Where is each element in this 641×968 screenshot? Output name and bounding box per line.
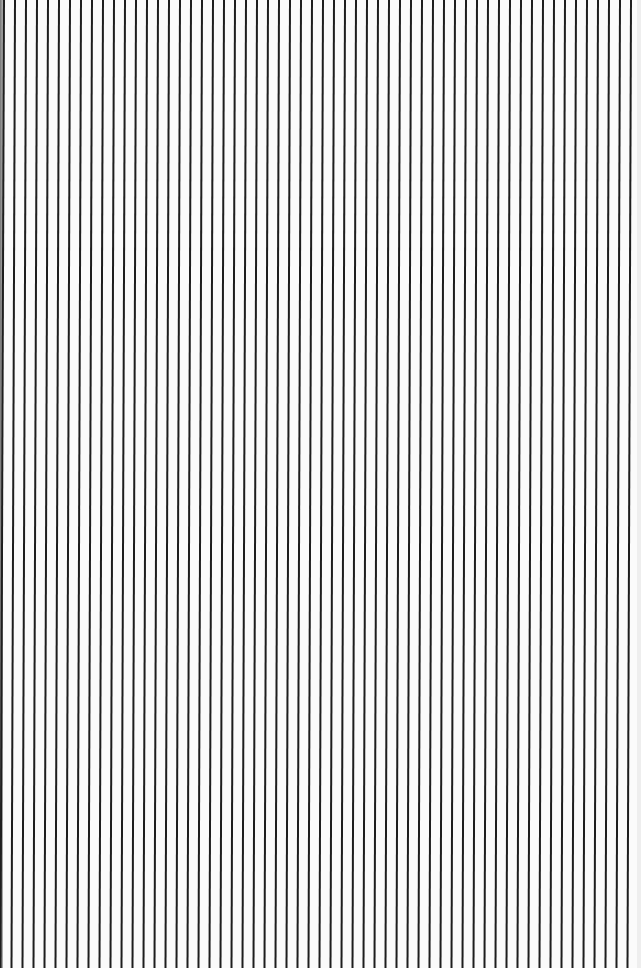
stripe-line	[550, 0, 556, 968]
stripe-line	[407, 0, 412, 968]
stripe-line	[165, 0, 170, 968]
stripe-line	[319, 0, 324, 968]
stripe-line	[132, 0, 137, 968]
stripe-group	[0, 0, 641, 968]
stripe-line	[627, 0, 633, 968]
stripe-line	[583, 0, 589, 968]
stripe-line	[77, 0, 82, 968]
stripe-line	[440, 0, 445, 968]
stripe-line	[594, 0, 600, 968]
stripe-line	[99, 0, 104, 968]
stripe-line	[55, 0, 60, 968]
stripe-line	[572, 0, 578, 968]
stripe-line	[484, 0, 489, 968]
stripe-line	[297, 0, 302, 968]
stripe-line	[88, 0, 93, 968]
stripe-line	[363, 0, 368, 968]
stripe-line	[187, 0, 192, 968]
stripe-line	[385, 0, 390, 968]
stripe-line	[209, 0, 214, 968]
stripe-line	[11, 0, 16, 968]
stripe-line	[231, 0, 236, 968]
stripe-line	[22, 0, 27, 968]
stripe-line	[0, 0, 5, 968]
stripe-line	[176, 0, 181, 968]
stripe-line	[154, 0, 159, 968]
stripe-line	[506, 0, 511, 968]
stripe-line	[286, 0, 291, 968]
stripe-line	[242, 0, 247, 968]
stripe-line	[308, 0, 313, 968]
stripe-line	[341, 0, 346, 968]
stripe-line	[110, 0, 115, 968]
stripe-line	[33, 0, 38, 968]
stripe-line	[396, 0, 401, 968]
stripe-line	[44, 0, 49, 968]
stripe-line	[495, 0, 500, 968]
stripe-line	[220, 0, 225, 968]
stripe-line	[473, 0, 478, 968]
stripe-line	[121, 0, 126, 968]
stripe-line	[374, 0, 379, 968]
stripe-line	[605, 0, 611, 968]
stripe-line	[143, 0, 148, 968]
stripe-line	[616, 0, 622, 968]
stripe-line	[264, 0, 269, 968]
stripe-line	[198, 0, 203, 968]
stripe-line	[462, 0, 467, 968]
stripe-line	[517, 0, 523, 968]
stripe-line	[528, 0, 534, 968]
stripe-line	[352, 0, 357, 968]
stripe-line	[539, 0, 545, 968]
stripe-line	[253, 0, 258, 968]
stripe-pattern-canvas	[0, 0, 641, 968]
stripe-line	[330, 0, 335, 968]
stripe-line	[451, 0, 456, 968]
stripe-line	[418, 0, 423, 968]
stripe-line	[561, 0, 567, 968]
right-edge	[637, 0, 641, 968]
stripe-line	[275, 0, 280, 968]
stripe-line	[429, 0, 434, 968]
stripe-line	[66, 0, 71, 968]
